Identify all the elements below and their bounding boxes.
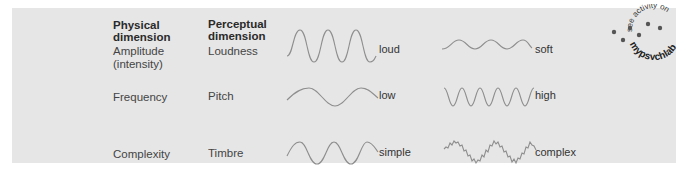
label-soft: soft (535, 43, 553, 55)
physical-label: Complexity (113, 148, 170, 161)
header-perceptual-line1: Perceptual (208, 18, 267, 30)
row-amplitude-perceptual: Loudness (208, 45, 258, 58)
label-low: low (379, 89, 396, 101)
mypsychlab-logo-icon: see activity on mypsychlab (606, 4, 682, 60)
mypsychlab-badge[interactable]: see activity on mypsychlab (606, 4, 682, 60)
header-physical-dimension: Physical dimension (113, 19, 171, 43)
wave-soft-icon (442, 36, 532, 56)
label-simple: simple (379, 146, 411, 158)
svg-text:mypsychlab: mypsychlab (628, 39, 678, 60)
row-frequency-perceptual: Pitch (208, 90, 234, 103)
label-high: high (535, 89, 556, 101)
header-perceptual-dimension: Perceptual dimension (208, 18, 267, 42)
physical-label: Amplitude (113, 45, 164, 58)
badge-brand-text: mypsychlab (628, 39, 678, 60)
row-frequency-physical: Frequency (113, 91, 167, 104)
row-complexity-physical: Complexity (113, 148, 170, 161)
physical-sublabel: (intensity) (113, 58, 164, 71)
physical-label: Frequency (113, 91, 167, 104)
header-perceptual-line2: dimension (208, 30, 267, 42)
wave-complex-icon (444, 137, 536, 167)
wave-high-icon (444, 84, 534, 110)
row-complexity-perceptual: Timbre (208, 147, 243, 160)
header-physical-line1: Physical (113, 19, 171, 31)
wave-simple-icon (287, 138, 379, 168)
label-complex: complex (535, 146, 576, 158)
wave-loud-icon (287, 26, 377, 66)
wave-low-icon (287, 86, 379, 110)
label-loud: loud (379, 43, 400, 55)
row-amplitude-physical: Amplitude (intensity) (113, 45, 164, 71)
header-physical-line2: dimension (113, 31, 171, 43)
